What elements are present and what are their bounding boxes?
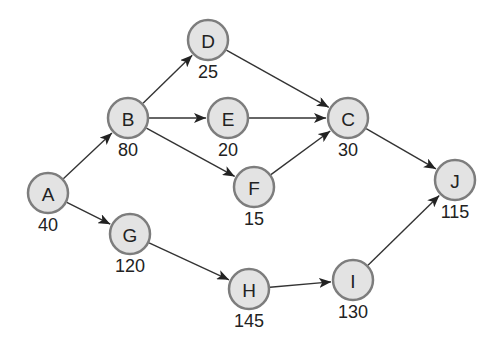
- node-a: A40: [28, 173, 68, 235]
- node-value: 115: [441, 202, 470, 222]
- node-value: 20: [218, 140, 238, 160]
- edge-a-to-g: [67, 202, 111, 224]
- node-g: G120: [110, 214, 150, 276]
- edge-a-to-b: [63, 133, 112, 179]
- network-diagram: A40B80D25E20F15C30G120H145I130J115: [0, 0, 497, 352]
- node-label: D: [201, 31, 215, 52]
- node-d: D25: [188, 20, 228, 82]
- node-value: 120: [115, 256, 145, 276]
- node-h: H145: [229, 269, 269, 331]
- edge-h-to-i: [270, 282, 331, 287]
- edge-c-to-j: [366, 129, 436, 169]
- edge-g-to-h: [149, 243, 229, 280]
- edge-i-to-j: [368, 195, 439, 265]
- node-label: J: [450, 171, 460, 192]
- node-label: B: [122, 109, 135, 130]
- node-value: 80: [118, 140, 138, 160]
- node-label: C: [341, 109, 355, 130]
- node-j: J115: [435, 160, 475, 222]
- edge-f-to-c: [271, 131, 330, 175]
- node-label: A: [42, 184, 55, 205]
- nodes-layer: A40B80D25E20F15C30G120H145I130J115: [28, 20, 475, 331]
- node-value: 145: [234, 311, 264, 331]
- node-value: 25: [198, 62, 218, 82]
- node-value: 15: [244, 209, 264, 229]
- edge-b-to-d: [143, 55, 192, 103]
- edge-d-to-c: [226, 50, 328, 107]
- node-label: H: [242, 280, 256, 301]
- node-value: 30: [338, 140, 358, 160]
- node-value: 130: [338, 302, 368, 322]
- node-e: E20: [208, 98, 248, 160]
- node-value: 40: [38, 215, 58, 235]
- node-label: I: [350, 271, 355, 292]
- node-i: I130: [333, 260, 373, 322]
- node-b: B80: [108, 98, 148, 160]
- node-f: F15: [234, 167, 274, 229]
- node-label: G: [123, 225, 138, 246]
- node-label: F: [248, 178, 260, 199]
- node-label: E: [222, 109, 235, 130]
- node-c: C30: [328, 98, 368, 160]
